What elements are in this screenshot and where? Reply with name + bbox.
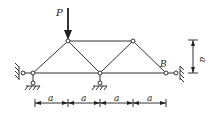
joint-b <box>164 71 168 75</box>
support-b-label: B <box>159 59 167 69</box>
joint-bottom-middle <box>98 71 102 75</box>
joint-top-right <box>131 39 135 43</box>
truss-diagram: P B a a a a a <box>0 0 212 117</box>
joint-bottom-left <box>31 71 35 75</box>
dim-label-1: a <box>48 93 53 103</box>
joints <box>31 39 168 75</box>
dim-label-4: a <box>147 93 152 103</box>
load-label: P <box>55 7 63 18</box>
diagonal-center-right <box>100 41 133 73</box>
vertical-dim-label: a <box>198 57 208 62</box>
dim-label-3: a <box>114 93 119 103</box>
truss-members <box>33 41 166 73</box>
vertical-dimension <box>188 40 198 73</box>
joint-top-left <box>66 39 70 43</box>
diagonal-center-left <box>68 41 100 73</box>
middle-support <box>92 73 107 90</box>
support-b <box>168 66 184 82</box>
load-arrow-p <box>64 8 72 40</box>
dim-label-2: a <box>81 93 86 103</box>
left-support <box>15 63 40 90</box>
diagonal-left <box>33 41 68 73</box>
